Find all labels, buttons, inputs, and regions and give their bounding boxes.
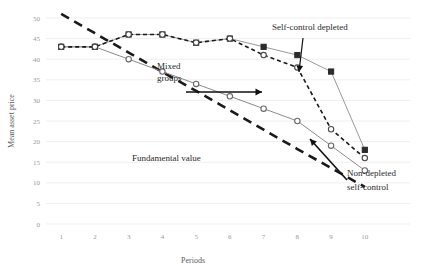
y-axis-tick-label: 15: [33, 159, 41, 167]
x-axis-tick-label: 3: [127, 233, 131, 241]
data-point-marker: [126, 57, 131, 62]
y-axis-tick-label: 5: [37, 200, 41, 208]
y-axis-tick-label: 35: [33, 76, 41, 84]
data-point-marker: [227, 36, 232, 41]
x-axis-tick-label: 2: [93, 233, 97, 241]
series-line: [61, 34, 365, 158]
data-point-marker: [328, 143, 333, 148]
y-axis-tick-label: 40: [33, 56, 41, 64]
x-axis-tick-label: 5: [194, 233, 198, 241]
data-point-marker: [126, 32, 131, 37]
y-axis-tick-label: 0: [37, 221, 41, 229]
data-point-marker: [295, 52, 300, 57]
data-point-marker: [362, 155, 367, 160]
data-point-marker: [362, 147, 367, 152]
x-axis-tick-label: 10: [361, 233, 369, 241]
data-point-marker: [58, 44, 63, 49]
y-axis-tick-label: 10: [33, 179, 41, 187]
data-point-marker: [261, 44, 266, 49]
mean-asset-price-line-chart: 0510152025303540455012345678910PeriodsMe…: [0, 0, 426, 275]
y-axis-tick-label: 25: [33, 118, 41, 126]
x-axis-tick-label: 7: [262, 233, 266, 241]
x-axis-title: Periods: [181, 256, 205, 265]
annotation-mixed-groups-line2: groups: [157, 73, 182, 83]
data-point-marker: [261, 52, 266, 57]
data-point-marker: [193, 40, 198, 45]
chart-container: 0510152025303540455012345678910PeriodsMe…: [0, 0, 426, 275]
data-point-marker: [261, 106, 266, 111]
data-point-marker: [227, 94, 232, 99]
data-point-marker: [328, 69, 333, 74]
annotation-mixed-groups-line1: Mixed: [157, 61, 181, 71]
data-point-marker: [160, 32, 165, 37]
annotation-non-depleted-line2: self-control: [347, 182, 389, 192]
annotation-fundamental-value: Fundamental value: [132, 153, 201, 163]
x-axis-ticks-group: 12345678910: [59, 233, 368, 241]
annotation-non-depleted-line1: Non-depleted: [347, 168, 396, 178]
y-axis-tick-label: 45: [33, 35, 41, 43]
y-axis-tick-label: 20: [33, 138, 41, 146]
x-axis-tick-label: 6: [228, 233, 232, 241]
data-point-marker: [193, 81, 198, 86]
x-axis-tick-label: 9: [329, 233, 333, 241]
x-axis-tick-label: 4: [161, 233, 165, 241]
y-axis-tick-label: 50: [33, 15, 41, 23]
x-axis-tick-label: 8: [296, 233, 300, 241]
data-point-marker: [295, 118, 300, 123]
data-point-marker: [328, 127, 333, 132]
series-non-depleted-self-control: [58, 44, 367, 173]
y-axis-title: Mean asset price: [7, 94, 16, 148]
arrow-head: [256, 89, 263, 96]
data-point-marker: [92, 44, 97, 49]
x-axis-tick-label: 1: [59, 233, 63, 241]
y-axis-tick-label: 30: [33, 97, 41, 105]
annotation-self-control-depleted: Self-control depleted: [272, 22, 348, 32]
